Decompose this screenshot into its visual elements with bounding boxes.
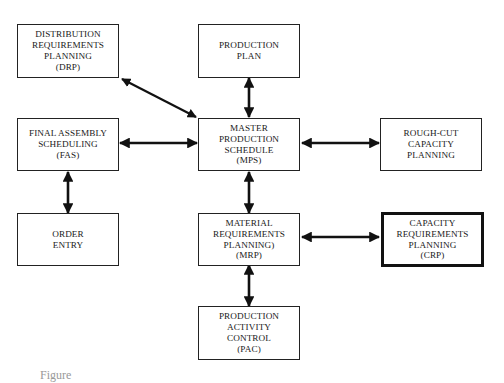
figure-caption: Figure [40, 368, 71, 383]
node-label: ENTRY [53, 240, 84, 251]
node-production-plan: PRODUCTION PLAN [198, 24, 300, 78]
node-label: (MPS) [236, 155, 261, 166]
node-label: ORDER [52, 229, 84, 240]
node-label: PLAN [237, 51, 261, 62]
node-drp: DISTRIBUTION REQUIREMENTS PLANNING (DRP) [17, 24, 119, 78]
node-label: REQUIREMENTS [32, 40, 104, 51]
node-label: PRODUCTION [219, 311, 279, 322]
node-label: CAPACITY [408, 139, 454, 150]
node-label: SCHEDULING [38, 139, 98, 150]
node-pac: PRODUCTION ACTIVITY CONTROL (PAC) [198, 306, 300, 360]
node-label: (DRP) [56, 62, 81, 73]
node-label: CAPACITY [410, 218, 456, 229]
node-label: FINAL ASSEMBLY [29, 128, 107, 139]
node-label: ACTIVITY [227, 322, 271, 333]
node-mrp: MATERIAL REQUIREMENTS PLANNING) (MRP) [198, 213, 300, 266]
node-label: PLANNING [407, 150, 455, 161]
node-label: MATERIAL [225, 218, 272, 229]
node-label: SCHEDULE [225, 145, 274, 156]
node-label: PLANNING [409, 240, 457, 251]
node-label: DISTRIBUTION [35, 29, 101, 40]
node-crp: CAPACITY REQUIREMENTS PLANNING (CRP) [381, 212, 484, 267]
node-label: (CRP) [421, 250, 445, 261]
node-fas: FINAL ASSEMBLY SCHEDULING (FAS) [17, 118, 119, 171]
node-label: CONTROL [227, 333, 271, 344]
node-label: PRODUCTION [219, 40, 279, 51]
node-mps: MASTER PRODUCTION SCHEDULE (MPS) [198, 118, 300, 171]
arrow-drp-mps [122, 79, 196, 117]
node-label: PLANNING [44, 51, 92, 62]
node-label: (PAC) [237, 344, 261, 355]
node-label: (MRP) [236, 250, 262, 261]
node-label: (FAS) [57, 150, 80, 161]
node-label: MASTER [230, 123, 268, 134]
node-label: REQUIREMENTS [396, 229, 468, 240]
node-label: REQUIREMENTS [213, 229, 285, 240]
node-label: PLANNING) [224, 240, 275, 251]
node-rough-cut-capacity-planning: ROUGH-CUT CAPACITY PLANNING [380, 118, 482, 171]
node-label: ROUGH-CUT [403, 128, 458, 139]
node-order-entry: ORDER ENTRY [17, 213, 119, 266]
node-label: PRODUCTION [219, 134, 279, 145]
